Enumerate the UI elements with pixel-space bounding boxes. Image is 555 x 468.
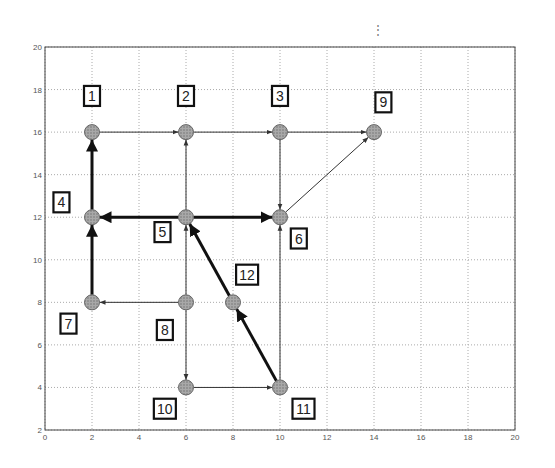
y-tick-label: 20 bbox=[33, 43, 42, 52]
x-tick-label: 10 bbox=[276, 433, 285, 442]
node-label-4: 4 bbox=[58, 194, 66, 210]
graph-plot: 024681012141618202468101214161820 123945… bbox=[0, 0, 555, 468]
x-tick-label: 16 bbox=[417, 433, 426, 442]
node-label-5: 5 bbox=[159, 224, 167, 240]
node-label-11: 11 bbox=[296, 401, 311, 417]
node-label-10: 10 bbox=[157, 401, 173, 417]
y-tick-label: 2 bbox=[38, 426, 43, 435]
node-label-1: 1 bbox=[88, 88, 96, 104]
node-9 bbox=[367, 125, 382, 140]
node-2 bbox=[179, 125, 194, 140]
node-label-7: 7 bbox=[65, 316, 73, 332]
y-tick-label: 18 bbox=[33, 86, 42, 95]
x-tick-label: 18 bbox=[464, 433, 473, 442]
node-10 bbox=[179, 380, 194, 395]
node-label-2: 2 bbox=[182, 88, 190, 104]
node-4 bbox=[85, 210, 100, 225]
node-label-9: 9 bbox=[380, 94, 388, 110]
y-tick-label: 4 bbox=[38, 383, 43, 392]
y-tick-label: 8 bbox=[38, 298, 43, 307]
top-marker: ⋮ bbox=[372, 23, 384, 37]
node-6 bbox=[273, 210, 288, 225]
node-5 bbox=[179, 210, 194, 225]
y-tick-label: 12 bbox=[33, 213, 42, 222]
node-label-6: 6 bbox=[295, 231, 303, 247]
y-tick-label: 14 bbox=[33, 171, 42, 180]
node-label-3: 3 bbox=[276, 88, 284, 104]
x-tick-label: 8 bbox=[231, 433, 236, 442]
y-tick-label: 10 bbox=[33, 256, 42, 265]
node-12 bbox=[226, 295, 241, 310]
node-labels: 123945678121011 bbox=[53, 86, 391, 419]
x-tick-label: 12 bbox=[323, 433, 332, 442]
y-tick-label: 16 bbox=[33, 128, 42, 137]
x-tick-label: 14 bbox=[370, 433, 379, 442]
node-3 bbox=[273, 125, 288, 140]
node-7 bbox=[85, 295, 100, 310]
node-1 bbox=[85, 125, 100, 140]
x-tick-label: 2 bbox=[90, 433, 95, 442]
x-tick-label: 0 bbox=[43, 433, 48, 442]
node-8 bbox=[179, 295, 194, 310]
node-label-8: 8 bbox=[161, 322, 169, 338]
node-label-12: 12 bbox=[239, 267, 255, 283]
x-tick-label: 4 bbox=[137, 433, 142, 442]
x-tick-label: 20 bbox=[511, 433, 520, 442]
node-11 bbox=[273, 380, 288, 395]
x-tick-label: 6 bbox=[184, 433, 189, 442]
y-tick-label: 6 bbox=[38, 341, 43, 350]
